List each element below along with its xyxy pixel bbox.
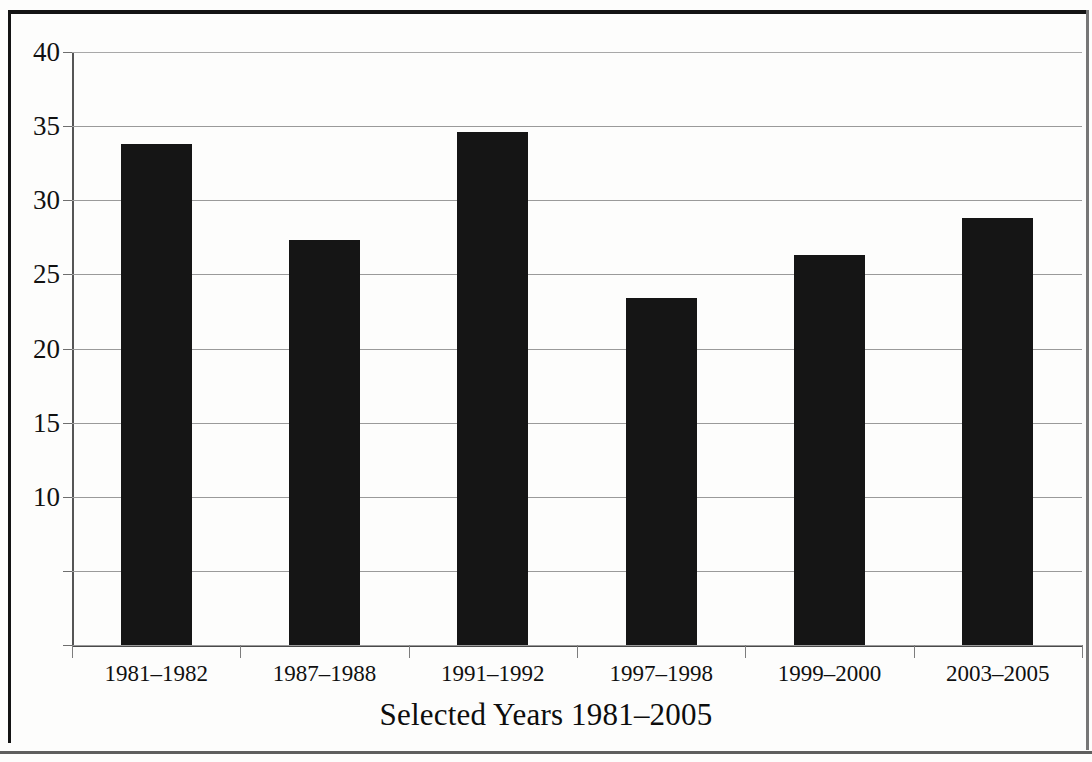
y-tick-mark-10 bbox=[63, 497, 72, 498]
chart-figure: 10152025303540 1981–19821987–19881991–19… bbox=[0, 0, 1092, 762]
x-tick-mark bbox=[1082, 645, 1083, 658]
page-border-bottom bbox=[0, 751, 1092, 754]
x-axis-title: Selected Years 1981–2005 bbox=[0, 697, 1092, 733]
y-tick-label-10: 10 bbox=[33, 483, 60, 510]
x-tick-mark bbox=[914, 645, 915, 658]
y-tick-label-35: 35 bbox=[33, 113, 60, 140]
y-tick-mark-5 bbox=[63, 571, 72, 572]
bar bbox=[289, 240, 360, 645]
y-tick-label-40: 40 bbox=[33, 39, 60, 66]
y-tick-mark-20 bbox=[63, 349, 72, 350]
y-tick-label-25: 25 bbox=[33, 261, 60, 288]
x-tick-mark bbox=[72, 645, 73, 658]
y-tick-mark-0 bbox=[63, 645, 72, 646]
x-tick-mark bbox=[240, 645, 241, 658]
x-tick-label: 1981–1982 bbox=[104, 662, 208, 685]
y-tick-label-15: 15 bbox=[33, 409, 60, 436]
x-tick-mark bbox=[409, 645, 410, 658]
x-tick-label: 1997–1998 bbox=[609, 662, 713, 685]
x-tick-mark bbox=[577, 645, 578, 658]
plot-area: 10152025303540 bbox=[72, 52, 1082, 645]
y-tick-mark-30 bbox=[63, 200, 72, 201]
y-tick-mark-40 bbox=[63, 52, 72, 53]
y-tick-label-30: 30 bbox=[33, 187, 60, 214]
y-tick-label-20: 20 bbox=[33, 335, 60, 362]
bar bbox=[962, 218, 1033, 645]
x-tick-label: 1987–1988 bbox=[273, 662, 377, 685]
bar bbox=[794, 255, 865, 645]
bars-group bbox=[72, 52, 1082, 645]
x-tick-label: 1999–2000 bbox=[778, 662, 882, 685]
y-tick-mark-25 bbox=[63, 274, 72, 275]
x-tick-label: 2003–2005 bbox=[946, 662, 1050, 685]
bar bbox=[121, 144, 192, 645]
y-tick-mark-15 bbox=[63, 423, 72, 424]
bar bbox=[457, 132, 528, 645]
page-border-right bbox=[1086, 10, 1089, 750]
bar bbox=[626, 298, 697, 645]
x-tick-label: 1991–1992 bbox=[441, 662, 545, 685]
x-tick-mark bbox=[745, 645, 746, 658]
y-tick-mark-35 bbox=[63, 126, 72, 127]
